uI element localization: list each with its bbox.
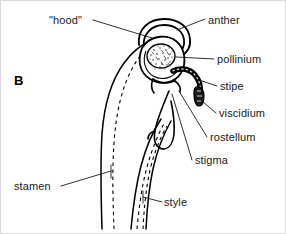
label-stipe: stipe bbox=[220, 80, 244, 92]
label-stamen: stamen bbox=[14, 180, 51, 192]
label-stigma: stigma bbox=[195, 154, 228, 166]
orchid-column-figure: B "hood" anther pollinium stipe viscidiu… bbox=[0, 0, 286, 234]
label-style: style bbox=[164, 196, 187, 208]
label-pollinium: pollinium bbox=[217, 53, 261, 65]
leader-tick-marks bbox=[111, 165, 143, 203]
style-shaft bbox=[131, 119, 171, 229]
leader-stamen bbox=[61, 171, 111, 186]
label-anther: anther bbox=[208, 14, 240, 26]
viscidium-pad bbox=[194, 87, 204, 106]
leader-viscidium bbox=[202, 101, 216, 113]
label-rostellum: rostellum bbox=[210, 131, 256, 143]
leader-style bbox=[143, 197, 162, 202]
label-viscidium: viscidium bbox=[219, 107, 265, 119]
panel-letter-b: B bbox=[14, 73, 23, 88]
label-hood: "hood" bbox=[49, 14, 82, 26]
